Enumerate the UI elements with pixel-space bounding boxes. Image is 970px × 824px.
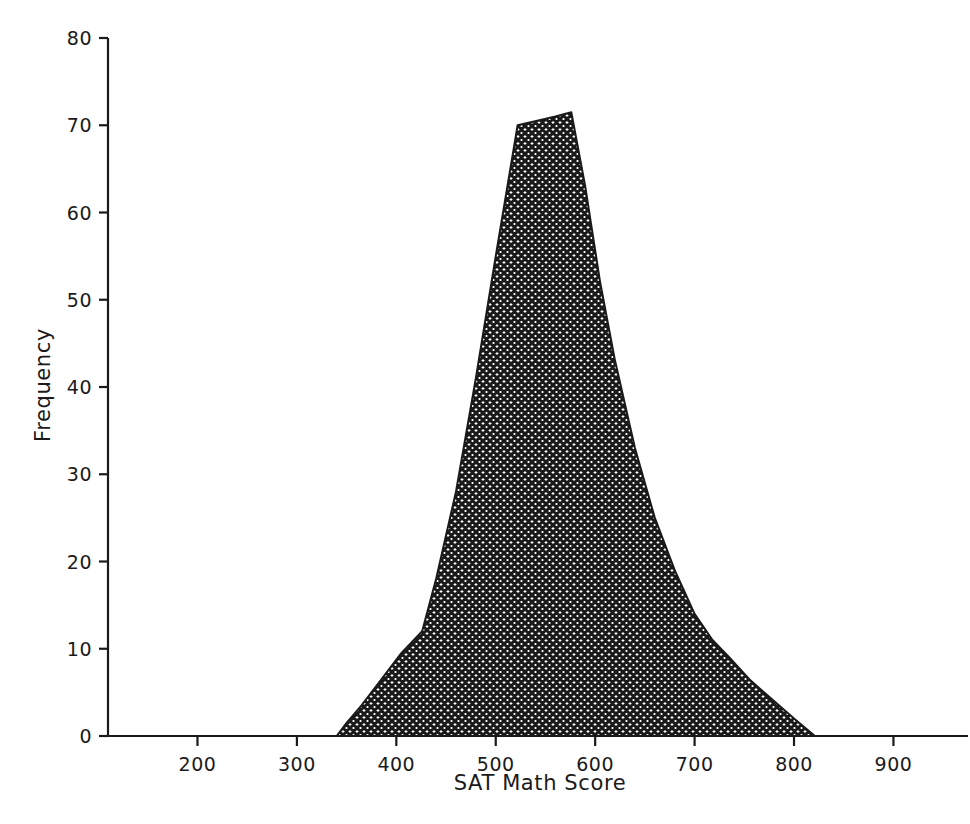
x-axis-ticks (197, 736, 893, 746)
x-axis-tick-label: 400 (377, 753, 415, 775)
x-axis-tick-label: 200 (179, 753, 217, 775)
y-axis-tick-label: 60 (67, 202, 92, 224)
histogram-plot: 01020304050607080 Frequency 200300400500… (0, 0, 970, 824)
y-axis-tick-label: 50 (67, 289, 92, 311)
y-axis: 01020304050607080 Frequency (31, 27, 108, 747)
y-axis-tick-label: 80 (67, 27, 92, 49)
distribution-area (337, 112, 815, 736)
distribution-area-fill (337, 112, 815, 736)
y-axis-tick-labels: 01020304050607080 (67, 27, 92, 747)
y-axis-tick-label: 20 (67, 551, 92, 573)
x-axis-tick-label: 700 (676, 753, 714, 775)
x-axis-title: SAT Math Score (454, 771, 626, 795)
x-axis-tick-label: 800 (775, 753, 813, 775)
y-axis-tick-label: 70 (67, 114, 92, 136)
x-axis-tick-label: 300 (278, 753, 316, 775)
x-axis: 200300400500600700800900 SAT Math Score (108, 736, 968, 795)
y-axis-ticks (99, 38, 108, 736)
y-axis-tick-label: 10 (67, 638, 92, 660)
y-axis-title: Frequency (31, 328, 55, 442)
y-axis-tick-label: 40 (67, 376, 92, 398)
y-axis-tick-label: 30 (67, 463, 92, 485)
chart-figure: 01020304050607080 Frequency 200300400500… (0, 0, 970, 824)
y-axis-tick-label: 0 (79, 725, 92, 747)
x-axis-tick-label: 900 (875, 753, 913, 775)
